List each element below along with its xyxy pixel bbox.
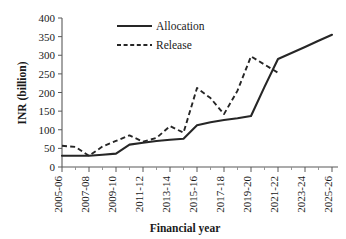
legend-label-release: Release	[156, 39, 192, 51]
y-tick-label: 250	[39, 68, 56, 80]
x-tick-label: 2007-08	[79, 176, 91, 213]
x-tick-marks	[62, 167, 332, 172]
y-tick-label: 50	[44, 142, 56, 154]
x-tick-label: 2019-20	[241, 176, 253, 213]
y-tick-label: 0	[50, 161, 56, 173]
x-tick-label: 2021-22	[268, 176, 280, 213]
x-tick-label: 2009-10	[106, 176, 118, 213]
legend: Allocation Release	[117, 20, 205, 51]
line-chart: 050100150200250300350400 INR (billion) 2…	[0, 0, 346, 239]
x-tick-label: 2005-06	[52, 176, 64, 213]
y-tick-label: 300	[39, 49, 56, 61]
y-tick-label: 350	[39, 31, 56, 43]
x-tick-labels: 2005-062007-082009-102011-122013-142015-…	[52, 176, 334, 213]
chart-container: 050100150200250300350400 INR (billion) 2…	[0, 0, 346, 239]
x-tick-label: 2017-18	[214, 176, 226, 213]
y-tick-labels: 050100150200250300350400	[39, 12, 56, 173]
x-tick-label: 2013-14	[160, 176, 172, 213]
y-tick-marks	[58, 18, 62, 167]
legend-label-allocation: Allocation	[156, 20, 205, 32]
series-group	[62, 35, 332, 156]
x-axis-group: 2005-062007-082009-102011-122013-142015-…	[52, 167, 338, 235]
series-line-release	[62, 56, 278, 155]
x-tick-label: 2025-26	[322, 176, 334, 213]
y-axis-group: 050100150200250300350400 INR (billion)	[16, 12, 62, 173]
y-tick-label: 400	[39, 12, 56, 24]
x-tick-label: 2011-12	[133, 176, 145, 212]
x-tick-label: 2023-24	[295, 176, 307, 213]
y-axis-title: INR (billion)	[16, 61, 29, 124]
y-tick-label: 200	[39, 87, 56, 99]
y-tick-label: 150	[39, 105, 56, 117]
series-line-allocation	[62, 35, 332, 156]
x-axis-title: Financial year	[150, 222, 221, 235]
y-tick-label: 100	[39, 124, 56, 136]
x-tick-label: 2015-16	[187, 176, 199, 213]
